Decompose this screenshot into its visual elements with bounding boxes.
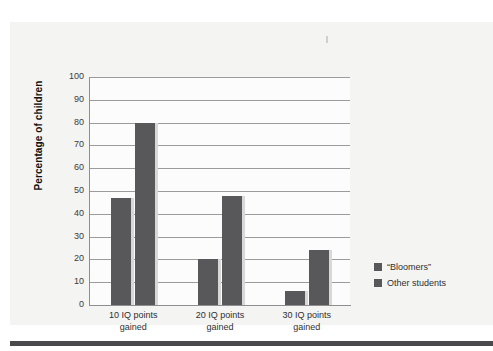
gridline <box>90 100 350 101</box>
x-category-line: gained <box>87 322 179 334</box>
bar <box>222 196 242 305</box>
gridline <box>90 123 350 124</box>
y-tick-label: 50 <box>58 186 84 195</box>
y-axis-title: Percentage of children <box>33 46 44 226</box>
legend-label: Other students <box>387 278 446 288</box>
x-category-line: 10 IQ points <box>87 310 179 322</box>
bar <box>111 198 131 305</box>
y-tick-label: 100 <box>58 72 84 81</box>
bar <box>285 291 305 305</box>
gridline <box>90 168 350 169</box>
gridline <box>90 77 350 78</box>
x-category-label: 10 IQ pointsgained <box>87 310 179 333</box>
legend-swatch <box>374 279 382 287</box>
x-category-line: 30 IQ points <box>261 310 353 322</box>
chart-panel: Percentage of children 10090807060504030… <box>10 22 493 325</box>
x-category-label: 30 IQ pointsgained <box>261 310 353 333</box>
y-tick-label: 20 <box>58 254 84 263</box>
chart-legend: “Bloomers”Other students <box>374 262 446 294</box>
legend-item: “Bloomers” <box>374 262 446 272</box>
y-tick-label: 10 <box>58 277 84 286</box>
x-category-line: gained <box>261 322 353 334</box>
bar <box>198 259 218 305</box>
gridline <box>90 145 350 146</box>
bottom-divider-rule <box>10 341 493 346</box>
x-category-line: gained <box>174 322 266 334</box>
y-tick-label: 30 <box>58 232 84 241</box>
plot-area <box>90 77 350 305</box>
legend-swatch <box>374 263 382 271</box>
x-category-label: 20 IQ pointsgained <box>174 310 266 333</box>
legend-label: “Bloomers” <box>387 262 431 272</box>
x-axis-line <box>89 305 351 306</box>
y-tick-label: 70 <box>58 140 84 149</box>
bar <box>135 123 155 305</box>
legend-item: Other students <box>374 278 446 288</box>
y-tick-label: 90 <box>58 95 84 104</box>
gridline <box>90 191 350 192</box>
scan-artifact-mark <box>326 36 328 43</box>
figure-page: Percentage of children 10090807060504030… <box>0 0 493 351</box>
bar <box>309 250 329 305</box>
y-tick-label: 40 <box>58 209 84 218</box>
y-tick-label: 80 <box>58 118 84 127</box>
x-category-line: 20 IQ points <box>174 310 266 322</box>
y-tick-label: 60 <box>58 163 84 172</box>
y-axis-ticks: 1009080706050403020100 <box>54 77 84 305</box>
y-tick-label: 0 <box>58 300 84 309</box>
